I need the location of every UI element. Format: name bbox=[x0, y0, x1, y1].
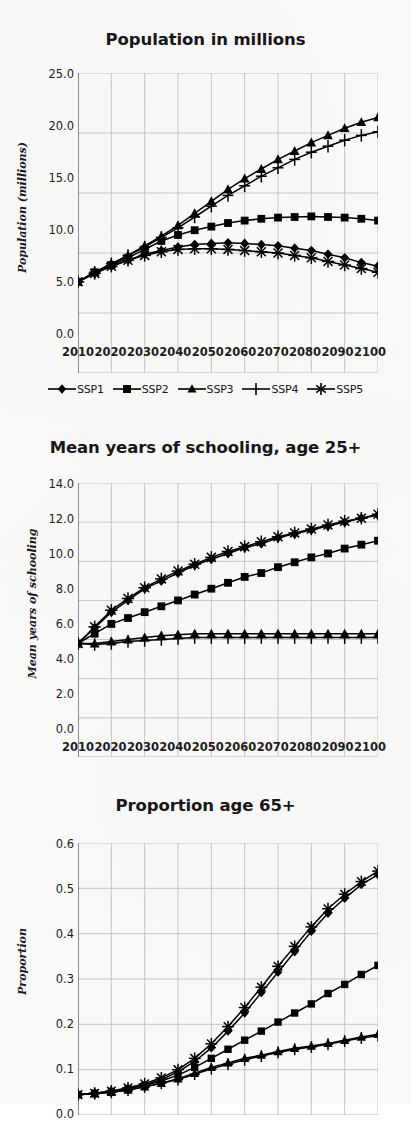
chart-title-proportion: Proportion age 65+ bbox=[0, 798, 411, 815]
y-tick-school-2: 2.0 bbox=[26, 689, 74, 701]
asterisk-marker-icon bbox=[307, 382, 335, 396]
y-tick-population-25: 25.0 bbox=[26, 69, 74, 81]
y-tick-prop-00: 0.0 bbox=[26, 1109, 74, 1121]
chart-panel-proportion: Proportion age 65+ Proportion 0.6 0.5 0.… bbox=[0, 798, 411, 1115]
y-tick-prop-03: 0.3 bbox=[26, 974, 74, 986]
y-tick-population-5: 5.0 bbox=[26, 277, 74, 289]
y-tick-school-12: 12.0 bbox=[26, 514, 74, 526]
x-tick-pop-9: 2100 bbox=[354, 345, 386, 359]
x-tick-pop-8: 2090 bbox=[322, 345, 354, 359]
x-tick-sch-9: 2100 bbox=[354, 740, 386, 754]
x-axis-ticks-schooling: 2010 2020 2030 2040 2050 2060 2070 2080 … bbox=[62, 740, 386, 754]
plot-area-proportion: Proportion 0.6 0.5 0.4 0.3 0.2 0.1 0.0 bbox=[0, 815, 411, 1115]
y-tick-population-0: 0.0 bbox=[26, 329, 74, 341]
x-tick-sch-0: 2010 bbox=[62, 740, 94, 754]
x-tick-sch-3: 2040 bbox=[159, 740, 191, 754]
y-tick-population-15: 15.0 bbox=[26, 173, 74, 185]
legend-label-ssp3: SSP3 bbox=[207, 383, 234, 396]
y-tick-school-0: 0.0 bbox=[26, 724, 74, 736]
legend-label-ssp5: SSP5 bbox=[336, 383, 363, 396]
plus-marker-icon bbox=[242, 382, 270, 396]
legend-item-ssp2[interactable]: SSP2 bbox=[113, 382, 169, 396]
plot-canvas-schooling bbox=[78, 483, 378, 757]
y-tick-prop-01: 0.1 bbox=[26, 1064, 74, 1076]
triangle-marker-icon bbox=[178, 382, 206, 396]
legend-item-ssp5[interactable]: SSP5 bbox=[307, 382, 363, 396]
y-axis-label-population: Population (millions) bbox=[16, 141, 29, 272]
legend-item-ssp3[interactable]: SSP3 bbox=[178, 382, 234, 396]
x-tick-pop-1: 2020 bbox=[94, 345, 126, 359]
chart-legend: SSP1 SSP2 SSP3 SSP4 bbox=[0, 382, 411, 396]
x-tick-pop-4: 2050 bbox=[192, 345, 224, 359]
x-axis-ticks-population: 2010 2020 2030 2040 2050 2060 2070 2080 … bbox=[62, 345, 386, 359]
plot-canvas-population bbox=[78, 73, 378, 373]
plot-canvas-proportion bbox=[78, 843, 378, 1115]
x-tick-sch-5: 2060 bbox=[224, 740, 256, 754]
y-tick-prop-05: 0.5 bbox=[26, 884, 74, 896]
plot-area-schooling: Mean years of schooling 14.0 12.0 10.0 8… bbox=[0, 457, 411, 767]
x-tick-pop-5: 2060 bbox=[224, 345, 256, 359]
y-tick-school-4: 4.0 bbox=[26, 654, 74, 666]
y-tick-school-8: 8.0 bbox=[26, 584, 74, 596]
x-tick-sch-2: 2030 bbox=[127, 740, 159, 754]
y-tick-prop-02: 0.2 bbox=[26, 1019, 74, 1031]
y-tick-prop-06: 0.6 bbox=[26, 839, 74, 851]
x-tick-sch-1: 2020 bbox=[94, 740, 126, 754]
chart-title-schooling: Mean years of schooling, age 25+ bbox=[0, 440, 411, 457]
chart-panel-population: Population in millions Population (milli… bbox=[0, 32, 411, 367]
y-tick-school-10: 10.0 bbox=[26, 549, 74, 561]
legend-item-ssp4[interactable]: SSP4 bbox=[242, 382, 298, 396]
legend-label-ssp2: SSP2 bbox=[142, 383, 169, 396]
legend-item-ssp1[interactable]: SSP1 bbox=[48, 382, 104, 396]
y-tick-school-6: 6.0 bbox=[26, 619, 74, 631]
x-tick-pop-6: 2070 bbox=[257, 345, 289, 359]
x-tick-pop-3: 2040 bbox=[159, 345, 191, 359]
x-tick-sch-7: 2080 bbox=[289, 740, 321, 754]
legend-label-ssp1: SSP1 bbox=[77, 383, 104, 396]
plot-area-population: Population (millions) 25.0 20.0 15.0 10.… bbox=[0, 49, 411, 367]
x-tick-pop-2: 2030 bbox=[127, 345, 159, 359]
chart-title-population: Population in millions bbox=[0, 32, 411, 49]
y-tick-prop-04: 0.4 bbox=[26, 929, 74, 941]
x-tick-pop-0: 2010 bbox=[62, 345, 94, 359]
y-tick-population-10: 10.0 bbox=[26, 225, 74, 237]
legend-label-ssp4: SSP4 bbox=[271, 383, 298, 396]
y-tick-school-14: 14.0 bbox=[26, 479, 74, 491]
x-tick-sch-6: 2070 bbox=[257, 740, 289, 754]
x-tick-pop-7: 2080 bbox=[289, 345, 321, 359]
chart-panel-schooling: Mean years of schooling, age 25+ Mean ye… bbox=[0, 440, 411, 767]
y-tick-population-20: 20.0 bbox=[26, 121, 74, 133]
diamond-marker-icon bbox=[48, 382, 76, 396]
x-tick-sch-8: 2090 bbox=[322, 740, 354, 754]
square-marker-icon bbox=[113, 382, 141, 396]
x-tick-sch-4: 2050 bbox=[192, 740, 224, 754]
